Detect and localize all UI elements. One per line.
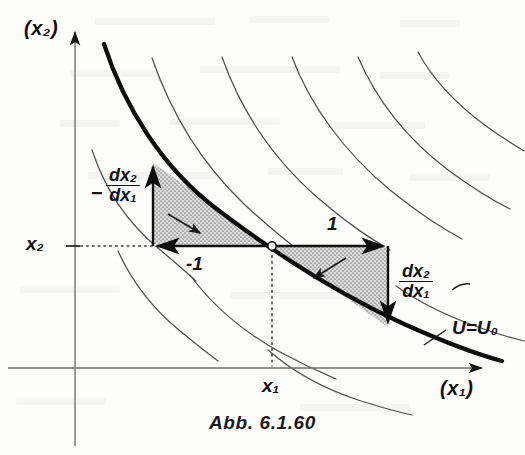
figure-container: (x₂) (x₁) x₂ x₁ -1 1 − dx₂ dx₁ dx₂ dx₁ U…: [0, 0, 525, 455]
right-fraction-leader: [452, 284, 470, 290]
indifference-curve-5: [222, 57, 390, 250]
left-slope-minus-sign: −: [91, 182, 103, 205]
right-run-label: 1: [327, 214, 338, 233]
left-slope-denominator: dx₁: [106, 185, 140, 205]
right-slope-denominator: dx₁: [399, 281, 433, 301]
projection-guides: [75, 246, 272, 366]
right-slope-fraction: dx₂ dx₁: [399, 262, 433, 302]
indifference-curve-2: [118, 251, 218, 361]
left-slope-fraction: dx₂ dx₁: [106, 166, 140, 206]
x-axis-label: (x₁): [440, 378, 473, 398]
curve-label-u-equals-u0: U=U₀: [452, 318, 498, 337]
tangency-point-marker: [268, 242, 276, 250]
figure-caption: Abb. 6.1.60: [0, 412, 525, 434]
right-slope-numerator: dx₂: [399, 262, 433, 281]
indifference-curve-9: [418, 52, 524, 151]
indifference-curve-8: [358, 57, 510, 209]
y-tick-label: x₂: [26, 234, 44, 253]
paper-show-through: [16, 16, 490, 411]
y-axis-label: (x₂): [24, 18, 58, 38]
left-run-label: -1: [186, 254, 203, 273]
x-tick-label: x₁: [262, 376, 279, 395]
indifference-curve-7: [292, 57, 462, 239]
left-slope-numerator: dx₂: [106, 166, 140, 185]
indifference-curve-4: [190, 275, 336, 379]
